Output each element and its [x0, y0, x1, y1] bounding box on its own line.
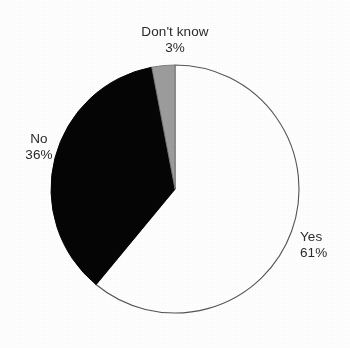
- pie-label-no: No 36%: [0, 131, 78, 162]
- pie-label-yes-value: 61%: [300, 245, 350, 261]
- pie-label-dont-know-value: 3%: [0, 40, 350, 56]
- pie-label-no-name: No: [0, 131, 78, 147]
- pie-label-dont-know: Don't know 3%: [0, 24, 350, 55]
- pie-chart: Don't know 3% No 36% Yes 61%: [0, 0, 350, 348]
- pie-label-no-value: 36%: [0, 147, 78, 163]
- pie-label-yes: Yes 61%: [300, 229, 350, 260]
- pie-label-yes-name: Yes: [300, 229, 350, 245]
- pie-label-dont-know-name: Don't know: [0, 24, 350, 40]
